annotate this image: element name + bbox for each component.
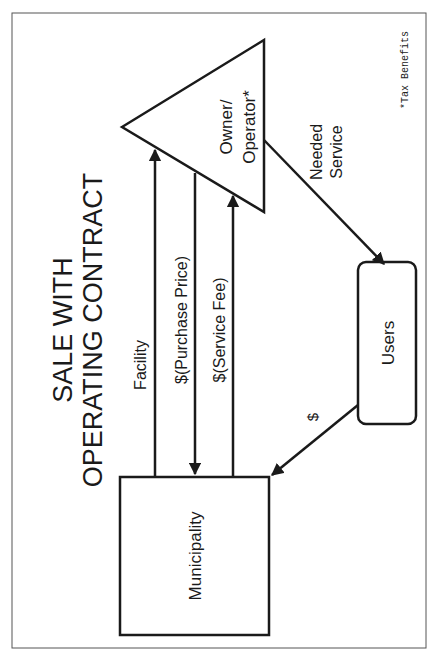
- facility-label: Facility: [132, 340, 149, 390]
- users-label: Users: [379, 321, 398, 365]
- purchase-price-label: $(Purchase Price): [173, 256, 190, 384]
- svg-text:Operator*: Operator*: [240, 90, 259, 164]
- svg-text:$: $: [304, 412, 321, 421]
- svg-text:$(Purchase Price): $(Purchase Price): [173, 256, 190, 384]
- payment-label: $: [304, 412, 321, 421]
- svg-text:Users: Users: [379, 321, 398, 365]
- municipality-label: Municipality: [186, 511, 205, 600]
- svg-text:$(Service Fee): $(Service Fee): [211, 278, 228, 383]
- needed-service-label: Needed Service: [308, 124, 345, 180]
- title-line-1: SALE WITH: [48, 257, 78, 403]
- svg-text:Needed: Needed: [308, 124, 325, 180]
- svg-text:Municipality: Municipality: [186, 511, 205, 600]
- service-fee-label: $(Service Fee): [211, 278, 228, 383]
- diagram-canvas: SALE WITH OPERATING CONTRACT Owner/ Oper…: [0, 0, 435, 661]
- footnote: *Tax Benefits: [400, 31, 411, 109]
- title-line-2: OPERATING CONTRACT: [78, 173, 108, 488]
- svg-text:*Tax Benefits: *Tax Benefits: [400, 31, 411, 109]
- svg-text:Owner/: Owner/: [217, 99, 236, 154]
- svg-text:Facility: Facility: [132, 340, 149, 390]
- svg-text:Service: Service: [328, 125, 345, 178]
- diagram-title: SALE WITH OPERATING CONTRACT: [48, 173, 108, 488]
